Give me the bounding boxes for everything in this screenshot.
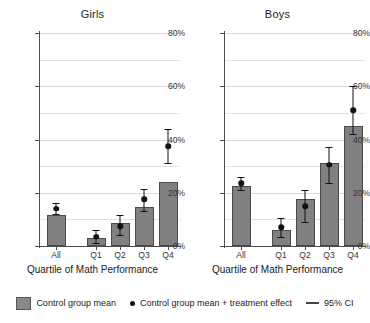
y-tick-label: 60% <box>151 81 185 91</box>
legend-item-treatment-effect: Control group mean + treatment effect <box>130 298 292 308</box>
x-tick-mark <box>144 247 145 250</box>
y-tick-label: 40% <box>151 135 185 145</box>
ci-cap <box>53 203 60 204</box>
y-tick-mark <box>220 140 224 141</box>
y-tick-label: 60% <box>336 81 370 91</box>
y-tick-mark <box>35 86 39 87</box>
y-tick-mark <box>35 193 39 194</box>
ci-cap <box>93 243 100 244</box>
x-axis-title-girls: Quartile of Math Performance <box>0 264 185 275</box>
legend-line-icon <box>306 302 319 304</box>
ci-cap <box>117 235 124 236</box>
point-marker-q1 <box>278 225 284 231</box>
x-axis-title-boys: Quartile of Math Performance <box>185 264 370 275</box>
x-tick-label: Q4 <box>347 250 358 260</box>
x-tick-label: All <box>51 250 60 260</box>
panel-girls: Girls Quartile of Math Performance 0%20%… <box>0 0 185 285</box>
ci-cap <box>302 222 309 223</box>
chart-legend: Control group mean Control group mean + … <box>0 288 370 318</box>
gridline <box>40 113 180 114</box>
x-tick-label: Q3 <box>323 250 334 260</box>
point-marker-q2 <box>117 223 123 229</box>
bar-all <box>232 186 251 246</box>
y-tick-label: 80% <box>151 28 185 38</box>
x-tick-label: Q4 <box>162 250 173 260</box>
x-tick-label: Q2 <box>114 250 125 260</box>
x-tick-label: Q3 <box>138 250 149 260</box>
point-marker-all <box>53 206 59 212</box>
point-marker-q1 <box>93 234 99 240</box>
gridline <box>40 60 180 61</box>
x-tick-label: Q1 <box>275 250 286 260</box>
panel-title-girls: Girls <box>0 8 185 20</box>
point-marker-q4 <box>350 107 356 113</box>
y-tick-mark <box>220 193 224 194</box>
y-tick-label: 80% <box>336 28 370 38</box>
ci-cap <box>326 183 333 184</box>
x-tick-mark <box>329 247 330 250</box>
y-tick-label: 20% <box>336 188 370 198</box>
legend-label-control-mean: Control group mean <box>36 298 116 308</box>
gridline <box>225 60 365 61</box>
y-tick-mark <box>220 246 224 247</box>
ci-cap <box>165 163 172 164</box>
y-tick-label: 20% <box>151 188 185 198</box>
gridline <box>40 166 180 167</box>
legend-square-icon <box>16 297 31 310</box>
legend-dot-icon <box>130 301 135 306</box>
x-tick-label: Q2 <box>299 250 310 260</box>
x-tick-label: Q1 <box>90 250 101 260</box>
ci-cap <box>93 230 100 231</box>
point-marker-q2 <box>302 203 308 209</box>
x-tick-mark <box>305 247 306 250</box>
legend-label-ci: 95% CI <box>324 298 354 308</box>
point-marker-q3 <box>326 162 332 168</box>
legend-item-ci: 95% CI <box>306 298 354 308</box>
y-tick-mark <box>220 86 224 87</box>
panel-title-boys: Boys <box>185 8 370 20</box>
x-tick-mark <box>241 247 242 250</box>
ci-cap <box>278 218 285 219</box>
ci-cap <box>165 129 172 130</box>
ci-cap <box>53 214 60 215</box>
point-marker-q3 <box>141 197 147 203</box>
ci-cap <box>238 190 245 191</box>
y-tick-label: 40% <box>336 135 370 145</box>
y-tick-mark <box>35 140 39 141</box>
legend-item-control-mean: Control group mean <box>16 297 116 310</box>
ci-cap <box>141 211 148 212</box>
x-tick-mark <box>168 247 169 250</box>
figure: Girls Quartile of Math Performance 0%20%… <box>0 0 370 323</box>
x-tick-mark <box>353 247 354 250</box>
y-tick-mark <box>35 33 39 34</box>
y-tick-mark <box>220 33 224 34</box>
y-tick-mark <box>35 246 39 247</box>
bar-all <box>47 215 66 246</box>
x-tick-mark <box>96 247 97 250</box>
ci-cap <box>238 177 245 178</box>
legend-label-treatment-effect: Control group mean + treatment effect <box>140 298 292 308</box>
x-tick-mark <box>56 247 57 250</box>
ci-cap <box>278 237 285 238</box>
gridline <box>225 113 365 114</box>
ci-cap <box>302 190 309 191</box>
panel-container: Girls Quartile of Math Performance 0%20%… <box>0 0 370 285</box>
ci-cap <box>326 147 333 148</box>
x-tick-mark <box>281 247 282 250</box>
point-marker-all <box>238 181 244 187</box>
x-tick-label: All <box>236 250 245 260</box>
ci-cap <box>141 189 148 190</box>
ci-cap <box>117 215 124 216</box>
x-tick-mark <box>120 247 121 250</box>
panel-boys: Boys Quartile of Math Performance 0%20%4… <box>185 0 370 285</box>
